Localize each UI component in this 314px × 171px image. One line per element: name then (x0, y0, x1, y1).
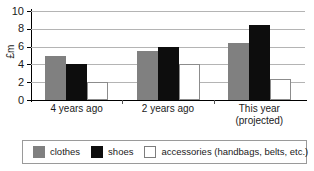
bar-clothes-0 (45, 56, 66, 100)
legend-label: accessories (handbags, belts, etc.) (161, 147, 308, 157)
legend-item-shoes[interactable]: shoes (91, 146, 133, 158)
y-tick-label-10: 10 (0, 6, 24, 17)
bar-shoes-0 (66, 64, 87, 100)
y-tick-label-0: 0 (0, 95, 24, 106)
x-group-label-1: 2 years ago (122, 103, 213, 115)
bar-chart: £m 0246810 4 years ago2 years agoThis ye… (0, 0, 314, 171)
legend-swatch-icon (144, 146, 156, 158)
y-tick-label-6: 6 (0, 41, 24, 52)
bar-accessories-1 (179, 64, 200, 100)
legend-item-clothes[interactable]: clothes (33, 146, 80, 158)
x-group-label-2: This year (projected) (214, 103, 305, 126)
legend-swatch-icon (91, 146, 103, 158)
legend-swatch-icon (33, 146, 45, 158)
y-tick-label-8: 8 (0, 23, 24, 34)
bar-accessories-2 (270, 79, 291, 100)
plot-area (31, 11, 305, 100)
legend-label: shoes (108, 147, 133, 157)
bar-accessories-0 (87, 82, 108, 100)
y-tick-label-2: 2 (0, 77, 24, 88)
y-tick-mark-0 (27, 100, 31, 101)
bar-clothes-1 (137, 51, 158, 100)
legend-item-accessories[interactable]: accessories (handbags, belts, etc.) (144, 146, 308, 158)
gridline-10 (31, 11, 305, 12)
chart-legend: clothesshoesaccessories (handbags, belts… (22, 140, 307, 164)
legend-label: clothes (50, 147, 80, 157)
bar-shoes-2 (249, 25, 270, 100)
y-tick-label-4: 4 (0, 59, 24, 70)
bar-clothes-2 (228, 43, 249, 100)
bar-shoes-1 (158, 47, 179, 100)
x-axis-line (27, 100, 307, 101)
x-group-label-0: 4 years ago (31, 103, 122, 115)
